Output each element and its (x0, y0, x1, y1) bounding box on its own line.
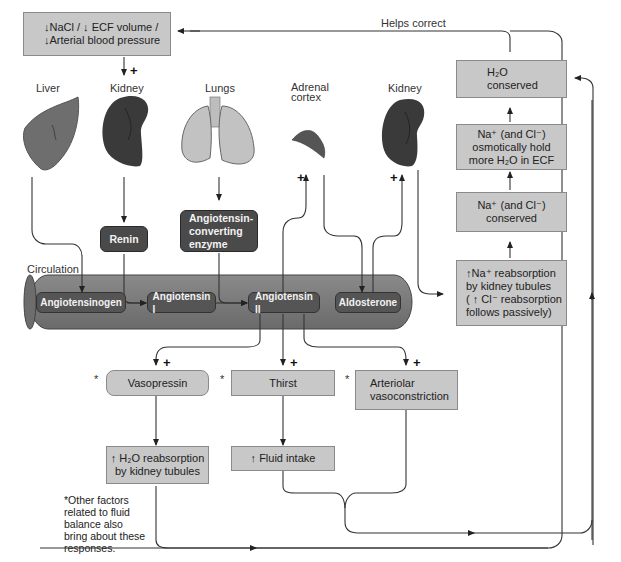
stimulation-sign: + (290, 357, 298, 369)
ace-label: Angiotensin- converting enzyme (189, 212, 253, 251)
stimulus-box: ↓NaCl / ↓ ECF volume / ↓Arterial blood p… (23, 12, 171, 56)
asterisk: * (94, 373, 98, 385)
box-text: Na⁺ (and Cl⁻) osmotically hold more H₂O … (469, 128, 555, 167)
stimulation-sign: + (390, 172, 398, 184)
molecule-angiotensin-1: Angiotensin I (147, 292, 216, 313)
circulation-label: Circulation (27, 263, 79, 275)
molecule-label: Angiotensin I (153, 290, 211, 316)
stimulation-sign: + (163, 357, 171, 369)
box-text: H₂O conserved (487, 66, 538, 92)
box-text: ↑ Fluid intake (251, 452, 316, 465)
renin-label: Renin (109, 233, 138, 246)
box-text: ↑ H₂O reabsorption by kidney tubules (111, 452, 205, 478)
molecule-label: Aldosterone (339, 296, 397, 309)
molecule-angiotensinogen: Angiotensinogen (36, 292, 126, 313)
asterisk: * (220, 373, 224, 385)
helps-correct-label: Helps correct (381, 17, 446, 29)
liver-icon (23, 97, 78, 170)
asterisk: * (345, 373, 349, 385)
h2o-conserved-box: H₂O conserved (456, 60, 567, 98)
raas-diagram: ↓NaCl / ↓ ECF volume / ↓Arterial blood p… (0, 0, 621, 562)
arteriolar-vasoconstriction-box: Arteriolar vasoconstriction (355, 370, 458, 410)
stimulation-sign: + (413, 357, 421, 369)
molecule-angiotensin-2: Angiotensin II (248, 292, 320, 313)
stimulation-sign: + (130, 65, 138, 77)
box-text: Thirst (269, 377, 297, 390)
h2o-reabsorption-box: ↑ H₂O reabsorption by kidney tubules (106, 446, 209, 484)
box-text: Na⁺ (and Cl⁻) conserved (477, 199, 545, 225)
fluid-intake-box: ↑ Fluid intake (231, 446, 335, 471)
organ-label-kidney: Kidney (110, 82, 144, 94)
na-conserved-box: Na⁺ (and Cl⁻) conserved (456, 192, 567, 232)
ace-box: Angiotensin- converting enzyme (180, 210, 258, 252)
box-text: Vasopressin (128, 377, 188, 390)
renin-box: Renin (100, 226, 148, 252)
stimulus-line-1: ↓NaCl / ↓ ECF volume / (44, 21, 158, 34)
kidney-icon-2 (382, 99, 424, 166)
na-hold-water-box: Na⁺ (and Cl⁻) osmotically hold more H₂O … (456, 124, 567, 170)
vasopressin-box: Vasopressin (106, 370, 209, 396)
molecule-label: Angiotensinogen (40, 296, 122, 309)
na-reabsorption-box: ↑Na⁺ reabsorption by kidney tubules ( ↑ … (456, 260, 567, 326)
organ-label-kidney-2: Kidney (388, 82, 422, 94)
molecule-label: Angiotensin II (255, 290, 313, 316)
box-text: Arteriolar vasoconstriction (370, 377, 449, 403)
stimulation-sign: + (297, 172, 305, 184)
stimulus-line-2: ↓Arterial blood pressure (44, 34, 160, 47)
organ-label-liver: Liver (36, 82, 60, 94)
box-text: ↑Na⁺ reabsorption by kidney tubules ( ↑ … (466, 267, 562, 319)
adrenal-cortex-icon (292, 130, 325, 158)
molecule-aldosterone: Aldosterone (335, 292, 401, 313)
organ-label-adrenal-cortex: Adrenal cortex (291, 82, 329, 102)
kidney-icon (102, 96, 148, 166)
organ-label-lungs: Lungs (205, 82, 235, 94)
lungs-icon (182, 97, 254, 164)
thirst-box: Thirst (231, 370, 335, 396)
footnote: *Other factors related to fluid balance … (64, 494, 145, 554)
